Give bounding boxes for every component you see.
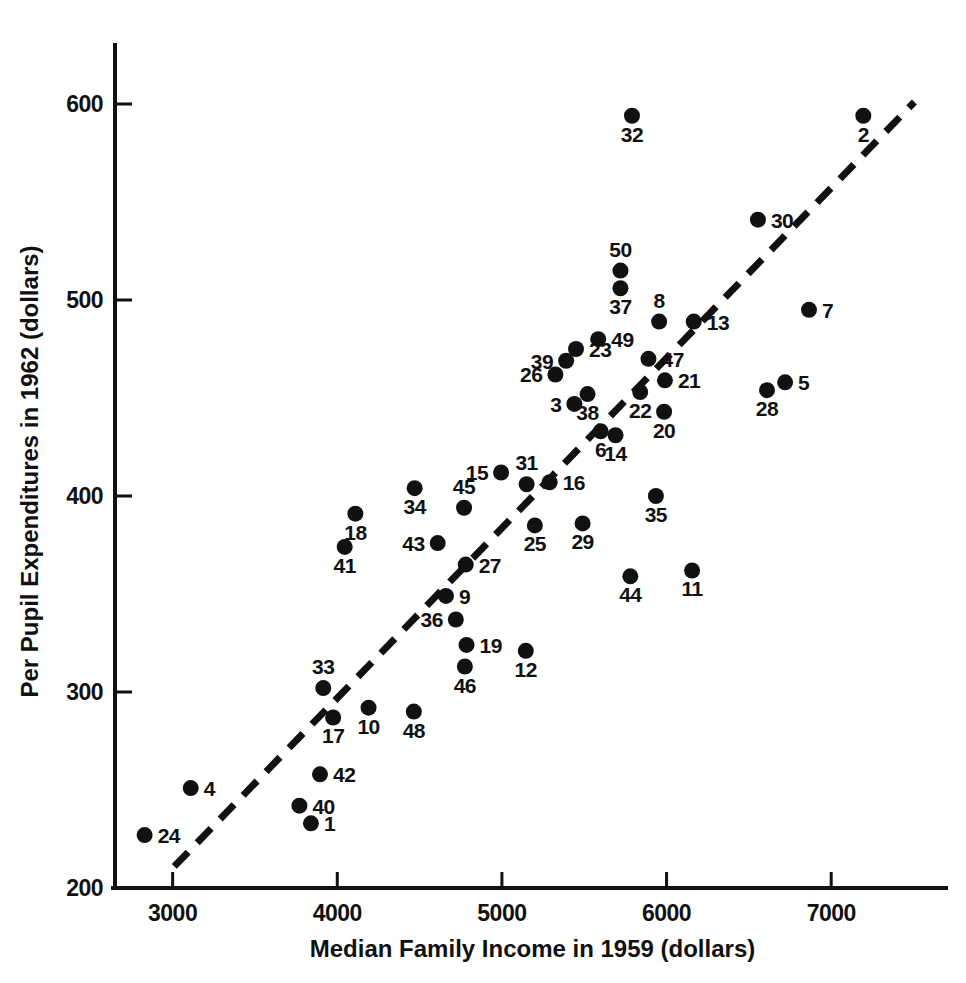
scatter-plot-svg: 2444014233171041184834439364527461915123… bbox=[0, 0, 966, 983]
data-point-15 bbox=[493, 464, 509, 480]
data-point-40 bbox=[291, 798, 307, 814]
data-point-36 bbox=[448, 611, 464, 627]
data-point-label-15: 15 bbox=[466, 461, 489, 484]
data-point-label-1: 1 bbox=[324, 812, 336, 835]
data-point-12 bbox=[518, 643, 534, 659]
data-point-label-21: 21 bbox=[678, 369, 701, 392]
data-point-7 bbox=[801, 302, 817, 318]
data-point-label-38: 38 bbox=[576, 401, 599, 424]
data-point-label-28: 28 bbox=[756, 397, 779, 420]
data-point-label-16: 16 bbox=[563, 471, 585, 494]
data-point-label-10: 10 bbox=[357, 715, 379, 738]
data-point-label-46: 46 bbox=[454, 674, 476, 697]
data-point-label-3: 3 bbox=[550, 393, 561, 416]
data-point-47 bbox=[640, 351, 656, 367]
data-point-22 bbox=[632, 384, 648, 400]
x-tick-label-6000: 6000 bbox=[642, 900, 691, 926]
data-point-19 bbox=[459, 637, 475, 653]
data-point-label-37: 37 bbox=[609, 295, 631, 318]
data-point-6 bbox=[593, 423, 609, 439]
data-point-label-41: 41 bbox=[334, 554, 357, 577]
data-point-label-27: 27 bbox=[479, 554, 501, 577]
data-point-label-35: 35 bbox=[645, 503, 668, 526]
data-point-label-36: 36 bbox=[420, 608, 442, 631]
data-point-24 bbox=[137, 827, 153, 843]
data-point-1 bbox=[303, 815, 319, 831]
data-point-50 bbox=[612, 263, 628, 279]
data-point-label-30: 30 bbox=[771, 209, 793, 232]
data-point-label-9: 9 bbox=[459, 585, 470, 608]
scatter-plot-figure: 2444014233171041184834439364527461915123… bbox=[0, 0, 966, 983]
data-point-label-47: 47 bbox=[661, 348, 683, 371]
data-point-25 bbox=[527, 517, 543, 533]
data-point-38 bbox=[580, 386, 596, 402]
data-point-label-50: 50 bbox=[609, 238, 631, 261]
data-point-label-32: 32 bbox=[621, 123, 643, 146]
data-point-label-11: 11 bbox=[681, 577, 703, 600]
x-axis-title: Median Family Income in 1959 (dollars) bbox=[310, 935, 755, 962]
x-tick-label-7000: 7000 bbox=[807, 900, 856, 926]
data-point-5 bbox=[777, 374, 793, 390]
data-point-label-20: 20 bbox=[653, 419, 675, 442]
data-point-23 bbox=[568, 341, 584, 357]
data-point-label-14: 14 bbox=[604, 442, 627, 465]
data-points: 2444014233171041184834439364527461915123… bbox=[137, 108, 872, 847]
data-point-46 bbox=[457, 659, 473, 675]
data-point-37 bbox=[612, 280, 628, 296]
data-point-label-25: 25 bbox=[524, 532, 547, 555]
y-tick-label-300: 300 bbox=[66, 679, 103, 705]
data-point-label-7: 7 bbox=[822, 299, 833, 322]
data-point-11 bbox=[684, 562, 700, 578]
data-point-17 bbox=[325, 709, 341, 725]
y-tick-label-200: 200 bbox=[66, 875, 103, 901]
data-point-35 bbox=[648, 488, 664, 504]
x-tick-label-5000: 5000 bbox=[477, 900, 526, 926]
data-point-label-12: 12 bbox=[515, 658, 537, 681]
data-point-29 bbox=[575, 515, 591, 531]
data-point-34 bbox=[407, 480, 423, 496]
data-point-label-17: 17 bbox=[322, 724, 344, 747]
data-point-label-18: 18 bbox=[344, 521, 367, 544]
data-point-label-33: 33 bbox=[312, 655, 334, 678]
data-point-label-2: 2 bbox=[858, 123, 869, 146]
data-point-label-31: 31 bbox=[515, 451, 538, 474]
data-point-13 bbox=[686, 314, 702, 330]
data-point-9 bbox=[438, 588, 454, 604]
data-point-label-43: 43 bbox=[402, 532, 424, 555]
data-point-28 bbox=[759, 382, 775, 398]
x-tick-label-3000: 3000 bbox=[148, 900, 197, 926]
y-tick-label-500: 500 bbox=[66, 287, 103, 313]
data-point-label-4: 4 bbox=[204, 777, 216, 800]
data-point-43 bbox=[430, 535, 446, 551]
data-point-label-39: 39 bbox=[531, 350, 553, 373]
data-point-30 bbox=[750, 212, 766, 228]
data-point-10 bbox=[361, 700, 377, 716]
data-point-45 bbox=[456, 500, 472, 516]
data-point-21 bbox=[657, 372, 673, 388]
data-point-label-22: 22 bbox=[629, 399, 651, 422]
x-tick-label-4000: 4000 bbox=[313, 900, 362, 926]
data-point-49 bbox=[590, 331, 606, 347]
data-point-31 bbox=[519, 476, 535, 492]
data-point-label-48: 48 bbox=[403, 719, 426, 742]
data-point-label-8: 8 bbox=[654, 289, 666, 312]
data-point-label-49: 49 bbox=[611, 328, 633, 351]
y-axis-title: Per Pupil Expenditures in 1962 (dollars) bbox=[16, 245, 43, 697]
data-point-32 bbox=[624, 108, 640, 124]
data-point-label-29: 29 bbox=[571, 530, 593, 553]
data-point-14 bbox=[608, 427, 624, 443]
data-point-2 bbox=[855, 108, 871, 124]
data-point-label-19: 19 bbox=[480, 634, 502, 657]
data-point-18 bbox=[347, 506, 363, 522]
data-point-label-42: 42 bbox=[333, 763, 355, 786]
data-point-33 bbox=[315, 680, 331, 696]
y-tick-label-600: 600 bbox=[66, 91, 103, 117]
data-point-44 bbox=[622, 568, 638, 584]
data-point-48 bbox=[406, 704, 422, 720]
y-tick-label-400: 400 bbox=[66, 483, 103, 509]
data-point-label-24: 24 bbox=[158, 824, 181, 847]
data-point-label-5: 5 bbox=[798, 371, 810, 394]
data-point-42 bbox=[312, 766, 328, 782]
data-point-16 bbox=[542, 474, 558, 490]
data-point-label-13: 13 bbox=[707, 311, 729, 334]
